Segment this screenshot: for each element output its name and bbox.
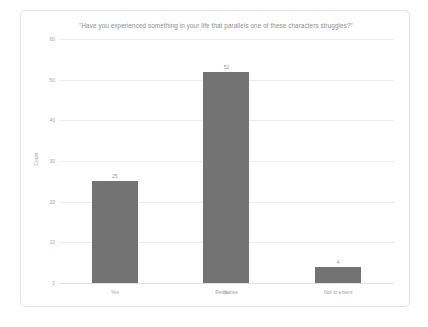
bar-value-label: 52 — [224, 64, 230, 70]
bar-value-label: 4 — [337, 259, 340, 265]
y-axis-tick-label: 20 — [49, 199, 55, 205]
chart-container: "Have you experienced something in your … — [20, 10, 410, 307]
y-axis-tick-label: 10 — [49, 239, 55, 245]
gridline: 0 — [59, 283, 394, 284]
y-axis-tick-label: 40 — [49, 117, 55, 123]
bar-group: 4Not to extent — [282, 39, 394, 283]
x-axis-title: Response — [59, 289, 394, 295]
bar[interactable] — [203, 72, 249, 283]
bar-group: 52No — [171, 39, 283, 283]
plot-area: 0102030405060 25Yes52No4Not to extent Re… — [59, 39, 394, 283]
bar-value-label: 25 — [112, 173, 118, 179]
y-axis-tick-label: 0 — [52, 280, 55, 286]
bar[interactable] — [315, 267, 361, 283]
y-axis-title: Count — [33, 152, 39, 165]
chart-title: "Have you experienced something in your … — [21, 22, 411, 30]
y-axis-tick-label: 50 — [49, 77, 55, 83]
bar[interactable] — [92, 181, 138, 283]
y-axis-tick-label: 60 — [49, 36, 55, 42]
bar-group: 25Yes — [59, 39, 171, 283]
y-axis-tick-label: 30 — [49, 158, 55, 164]
